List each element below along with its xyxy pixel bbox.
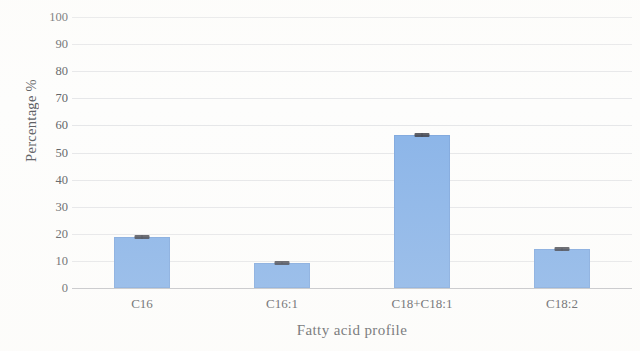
error-bar-cap: [415, 133, 430, 137]
y-tick-label: 70: [28, 91, 68, 106]
y-tick-label: 80: [28, 64, 68, 79]
bar: [114, 237, 170, 288]
bar-group: [254, 17, 310, 288]
bar-group: [534, 17, 590, 288]
bar: [534, 249, 590, 288]
error-bar-cap: [555, 247, 570, 251]
y-tick-label: 90: [28, 37, 68, 52]
x-axis-tick-labels: C16C16:1C18+C18:1C18:2: [72, 296, 632, 318]
plot-area: [72, 17, 632, 288]
y-tick-label: 50: [28, 145, 68, 160]
x-axis-title: Fatty acid profile: [72, 322, 632, 339]
y-tick-label: 20: [28, 226, 68, 241]
y-tick-label: 30: [28, 199, 68, 214]
y-tick-label: 0: [28, 281, 68, 296]
error-bar-cap: [275, 261, 290, 265]
x-tick-label: C18+C18:1: [352, 296, 492, 312]
y-tick-label: 60: [28, 118, 68, 133]
bar-group: [394, 17, 450, 288]
bar: [394, 135, 450, 288]
bar: [254, 263, 310, 288]
bar-group: [114, 17, 170, 288]
y-tick-label: 40: [28, 172, 68, 187]
gridline: [72, 288, 632, 289]
y-axis-tick-labels: 0102030405060708090100: [28, 17, 68, 288]
x-tick-label: C18:2: [492, 296, 632, 312]
y-tick-label: 10: [28, 253, 68, 268]
bars-layer: [72, 17, 632, 288]
bar-chart-figure: Percentage % 0102030405060708090100 C16C…: [0, 0, 640, 351]
x-tick-label: C16:1: [212, 296, 352, 312]
y-tick-label: 100: [28, 10, 68, 25]
error-bar-cap: [135, 235, 150, 239]
x-tick-label: C16: [72, 296, 212, 312]
